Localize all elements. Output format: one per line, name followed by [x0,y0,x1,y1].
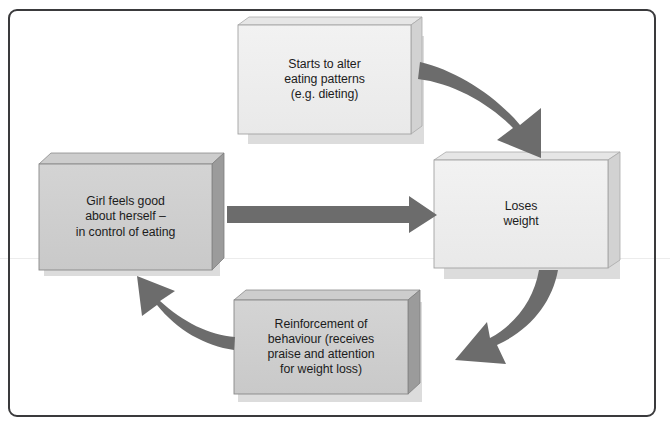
diagram-canvas: Starts to alter eating patterns (e.g. di… [0,0,670,427]
diagram-border-frame [8,9,656,417]
